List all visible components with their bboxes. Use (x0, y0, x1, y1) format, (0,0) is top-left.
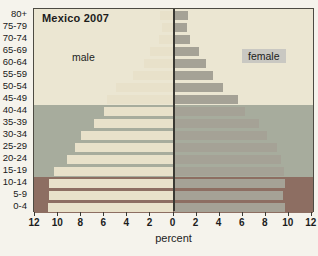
bar-male (94, 119, 174, 128)
age-label: 75-79 (0, 20, 27, 32)
bar-female (174, 35, 190, 44)
bar-male (49, 179, 174, 188)
bar-male (160, 11, 174, 20)
female-series-label: female (242, 49, 286, 63)
center-axis-line (173, 9, 175, 211)
age-label: 60-64 (0, 56, 27, 68)
age-label: 35-39 (0, 116, 27, 128)
bar-female (174, 95, 239, 104)
tick-label: 12 (300, 217, 318, 228)
tick-mark (288, 212, 289, 216)
bar-female (174, 167, 285, 176)
tick-label: 4 (208, 217, 230, 228)
x-axis-title: percent (33, 232, 314, 244)
bar-male (67, 155, 173, 164)
tick-label: 6 (231, 217, 253, 228)
bar-male (81, 131, 173, 140)
tick-mark (311, 212, 312, 216)
tick-mark (149, 212, 150, 216)
bar-female (174, 143, 278, 152)
bar-female (174, 203, 286, 212)
bar-male (49, 191, 174, 200)
pyramid-plot-area: Mexico 2007 male female (33, 8, 314, 212)
bar-female (174, 59, 206, 68)
tick-mark (126, 212, 127, 216)
age-label: 30-34 (0, 128, 27, 140)
age-label: 0-4 (0, 200, 27, 212)
age-label: 50-54 (0, 80, 27, 92)
bar-male (104, 107, 173, 116)
tick-mark (265, 212, 266, 216)
bar-male (144, 59, 174, 68)
age-label: 25-29 (0, 140, 27, 152)
age-label: 45-49 (0, 92, 27, 104)
age-label: 40-44 (0, 104, 27, 116)
tick-mark (57, 212, 58, 216)
bar-female (174, 11, 189, 20)
bar-female (174, 191, 284, 200)
population-pyramid-figure: 80+75-7970-7465-6960-6455-5950-5445-4940… (0, 0, 318, 256)
male-series-label: male (72, 51, 95, 63)
tick-label: 10 (277, 217, 299, 228)
bar-male (54, 167, 174, 176)
bar-female (174, 83, 224, 92)
tick-mark (242, 212, 243, 216)
tick-mark (34, 212, 35, 216)
bar-female (174, 119, 259, 128)
x-axis-tick-labels: 12108642024681012 (33, 217, 314, 229)
tick-label: 8 (254, 217, 276, 228)
tick-label: 0 (162, 217, 184, 228)
bar-female (174, 23, 188, 32)
age-label: 80+ (0, 8, 27, 20)
tick-label: 8 (69, 217, 91, 228)
tick-mark (219, 212, 220, 216)
tick-label: 4 (115, 217, 137, 228)
age-label: 70-74 (0, 32, 27, 44)
bar-female (174, 155, 281, 164)
age-label: 65-69 (0, 44, 27, 56)
bar-female (174, 107, 245, 116)
bar-female (174, 47, 199, 56)
tick-label: 10 (46, 217, 68, 228)
bar-male (159, 35, 174, 44)
tick-mark (80, 212, 81, 216)
tick-label: 6 (92, 217, 114, 228)
bar-male (116, 83, 174, 92)
tick-label: 12 (23, 217, 45, 228)
bar-male (133, 71, 173, 80)
chart-title: Mexico 2007 (42, 12, 109, 24)
age-label: 5-9 (0, 188, 27, 200)
tick-mark (173, 212, 174, 216)
age-label: 55-59 (0, 68, 27, 80)
bar-male (150, 47, 173, 56)
bar-female (174, 179, 286, 188)
bar-female (174, 131, 267, 140)
bar-male (107, 95, 174, 104)
age-label: 20-24 (0, 152, 27, 164)
tick-mark (196, 212, 197, 216)
bar-female (174, 71, 213, 80)
bar-male (48, 203, 174, 212)
tick-label: 2 (185, 217, 207, 228)
tick-mark (103, 212, 104, 216)
age-label: 10-14 (0, 176, 27, 188)
bar-male (75, 143, 173, 152)
tick-label: 2 (138, 217, 160, 228)
age-label: 15-19 (0, 164, 27, 176)
